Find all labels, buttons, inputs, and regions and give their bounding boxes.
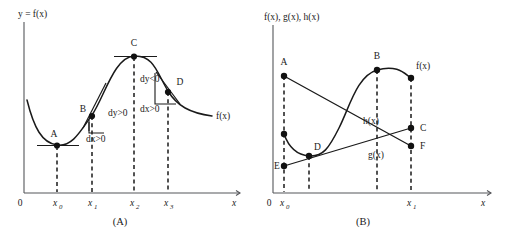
point-a-label: A <box>51 129 58 139</box>
xtick-x1: x 1 <box>406 198 416 210</box>
xtick-x0-base: x <box>52 198 58 208</box>
dx-positive-d-label: dx>0 <box>140 104 160 114</box>
xtick-x2-base: x <box>129 198 135 208</box>
origin-label: 0 <box>267 198 272 208</box>
xtick-x1-base: x <box>406 198 412 208</box>
panel-a-caption: (A) <box>113 216 128 228</box>
point-c-label: C <box>420 123 426 133</box>
f-curve <box>284 68 411 156</box>
point-d-dot <box>306 153 312 159</box>
xtick-x0-base: x <box>279 198 285 208</box>
point-c-dot <box>131 53 137 59</box>
panel-a-svg: A B C D dy>0 dx>0 dy<0 dx>0 f(x) y = f(x… <box>0 0 253 234</box>
f-curve-label: f(x) <box>416 61 430 72</box>
xtick-x1: x 1 <box>87 198 97 210</box>
h-curve-label: h(x) <box>363 116 379 127</box>
panel-b-caption: (B) <box>356 216 371 228</box>
point-b-label: B <box>374 51 380 61</box>
xtick-x0-sub: 0 <box>59 203 63 210</box>
f-curve-label: f(x) <box>216 111 230 122</box>
xtick-x2-sub: 2 <box>136 203 140 210</box>
point-f-at-x1-dot <box>408 75 414 81</box>
xtick-x3-sub: 3 <box>169 203 174 210</box>
x-axis-label: x <box>480 198 486 208</box>
xtick-x0: x 0 <box>52 198 63 210</box>
dy-negative-label: dy<0 <box>140 74 160 84</box>
point-b-label: B <box>80 104 86 114</box>
point-c-label: C <box>131 38 137 48</box>
origin-label: 0 <box>18 198 23 208</box>
point-e-label: E <box>274 161 280 171</box>
xtick-x2: x 2 <box>129 198 140 210</box>
point-c-dot <box>408 125 414 131</box>
xtick-x3-base: x <box>163 198 169 208</box>
x-axis-label: x <box>231 198 237 208</box>
tangent-at-b <box>83 83 106 128</box>
dy-positive-label: dy>0 <box>108 108 128 118</box>
point-d-label: D <box>314 142 321 152</box>
dx-positive-b-label: dx>0 <box>86 134 106 144</box>
point-f-dot <box>408 143 414 149</box>
point-d-label: D <box>177 77 184 87</box>
point-f-label: F <box>420 141 425 151</box>
point-b-dot <box>374 67 380 73</box>
point-f-at-x0-dot <box>281 131 287 137</box>
panel-a: A B C D dy>0 dx>0 dy<0 dx>0 f(x) y = f(x… <box>0 0 253 234</box>
panel-b-svg: A B C D E F f(x) g(x) h(x) f(x), g(x), h… <box>253 0 505 234</box>
xtick-x1-sub: 1 <box>413 203 416 210</box>
panel-b: A B C D E F f(x) g(x) h(x) f(x), g(x), h… <box>253 0 505 234</box>
point-a-dot <box>54 142 60 148</box>
g-curve-label: g(x) <box>368 150 384 161</box>
point-a-dot <box>281 73 287 79</box>
y-axis-label: y = f(x) <box>18 9 47 20</box>
xtick-x3: x 3 <box>163 198 174 210</box>
xtick-x1-base: x <box>87 198 93 208</box>
point-e-dot <box>281 163 287 169</box>
xtick-x0: x 0 <box>279 198 290 210</box>
xtick-x0-sub: 0 <box>286 203 290 210</box>
figure-container: A B C D dy>0 dx>0 dy<0 dx>0 f(x) y = f(x… <box>0 0 505 234</box>
point-a-label: A <box>281 57 288 67</box>
xtick-x1-sub: 1 <box>94 203 97 210</box>
g-line <box>284 128 411 166</box>
y-axis-label: f(x), g(x), h(x) <box>264 12 319 23</box>
point-b-dot <box>89 113 95 119</box>
h-line <box>284 76 411 146</box>
point-d-dot <box>165 89 171 95</box>
